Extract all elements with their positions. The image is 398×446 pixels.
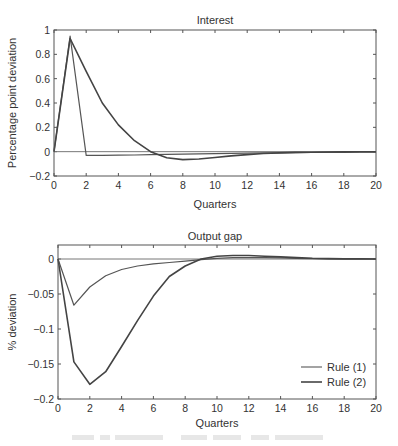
x-tick-label: 6 bbox=[150, 402, 156, 414]
y-tick-label: 0 bbox=[48, 253, 54, 265]
x-tick-label: 4 bbox=[119, 402, 125, 414]
x-tick-label: 0 bbox=[55, 402, 61, 414]
x-tick-label: 18 bbox=[338, 179, 350, 191]
x-tick-label: 14 bbox=[274, 179, 286, 191]
x-tick-label: 12 bbox=[241, 179, 253, 191]
x-tick-label: 18 bbox=[338, 402, 350, 414]
y-axis-label: Percentage point deviation bbox=[6, 38, 18, 168]
figure: Interest 02468101214161820−0.200.20.40.6… bbox=[0, 0, 398, 446]
y-tick-label: −0.1 bbox=[33, 323, 54, 335]
axis-ticks: 02468101214161820−0.200.20.40.60.81 bbox=[29, 24, 382, 191]
y-tick-label: −0.2 bbox=[29, 170, 50, 182]
y-tick-label: 0.8 bbox=[35, 48, 50, 60]
y-tick-label: 0.6 bbox=[35, 73, 50, 85]
y-tick-label: 0.2 bbox=[35, 121, 50, 133]
x-tick-label: 8 bbox=[182, 402, 188, 414]
x-tick-label: 4 bbox=[115, 179, 121, 191]
y-tick-label: 0 bbox=[44, 146, 50, 158]
chart-title: Output gap bbox=[188, 230, 242, 242]
x-tick-label: 2 bbox=[87, 402, 93, 414]
x-tick-label: 14 bbox=[275, 402, 287, 414]
faded-caption bbox=[72, 435, 323, 440]
y-tick-label: −0.15 bbox=[27, 358, 54, 370]
x-tick-label: 8 bbox=[180, 179, 186, 191]
x-tick-label: 16 bbox=[306, 179, 318, 191]
chart-title: Interest bbox=[197, 14, 234, 26]
x-tick-label: 16 bbox=[307, 402, 319, 414]
x-axis-label: Quarters bbox=[196, 417, 239, 429]
series-line-rule-1 bbox=[54, 36, 376, 155]
x-tick-label: 20 bbox=[370, 179, 382, 191]
interest-chart: Interest 02468101214161820−0.200.20.40.6… bbox=[6, 14, 382, 210]
series-line-rule-2 bbox=[54, 39, 376, 160]
y-tick-label: −0.05 bbox=[27, 288, 54, 300]
x-tick-label: 20 bbox=[370, 402, 382, 414]
y-tick-label: −0.2 bbox=[33, 393, 54, 405]
x-axis-label: Quarters bbox=[194, 198, 237, 210]
y-tick-label: 1 bbox=[44, 24, 50, 36]
x-tick-label: 2 bbox=[83, 179, 89, 191]
series-lines bbox=[54, 36, 376, 160]
legend-label-rule-1: Rule (1) bbox=[327, 361, 366, 373]
y-axis-label: % deviation bbox=[6, 294, 18, 351]
x-tick-label: 10 bbox=[209, 179, 221, 191]
series-line-rule-1 bbox=[58, 258, 376, 306]
output-gap-chart: Output gap 02468101214161820−0.2−0.15−0.… bbox=[6, 230, 382, 429]
x-tick-label: 10 bbox=[211, 402, 223, 414]
x-tick-label: 0 bbox=[51, 179, 57, 191]
x-tick-label: 6 bbox=[148, 179, 154, 191]
axis-ticks: 02468101214161820−0.2−0.15−0.1−0.050 bbox=[27, 245, 382, 414]
legend: Rule (1) Rule (2) bbox=[301, 361, 366, 388]
legend-label-rule-2: Rule (2) bbox=[327, 376, 366, 388]
y-tick-label: 0.4 bbox=[35, 97, 50, 109]
x-tick-label: 12 bbox=[243, 402, 255, 414]
